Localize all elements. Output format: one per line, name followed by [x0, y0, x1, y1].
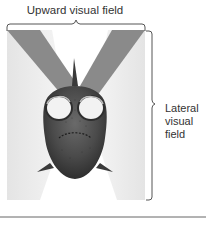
- right-brace: [146, 31, 155, 200]
- dorsal-spine: [72, 58, 78, 86]
- visual-field-diagram: [0, 0, 206, 226]
- top-brace: [7, 20, 145, 31]
